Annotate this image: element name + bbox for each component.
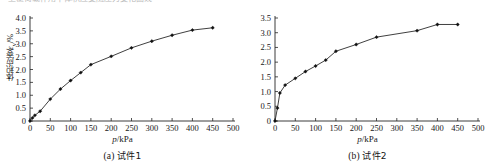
figure-b-caption: (b) 试件2 (245, 150, 490, 162)
x-tick-label: 300 (145, 123, 158, 133)
figure-a-caption-label: (a) (103, 151, 114, 161)
chart-a-y-tick-labels: 00.51.01.52.02.53.03.54.0 (15, 13, 26, 126)
x-tick-label: 450 (451, 123, 464, 133)
data-point-marker (150, 39, 153, 42)
data-point-marker (211, 26, 214, 29)
figure-a: 体积应变εv/% 050100150200250300350400450500 … (0, 8, 245, 167)
y-tick-label: 3.0 (15, 39, 26, 49)
figure-a-caption-name: 试件1 (117, 151, 141, 161)
figure-b-caption-label: (b) (348, 151, 360, 161)
x-tick-label: 350 (166, 123, 179, 133)
x-tick-label: 150 (85, 123, 98, 133)
y-tick-label: 0.5 (260, 101, 271, 111)
data-point-marker (436, 23, 439, 26)
figure-a-caption: (a) 试件1 (0, 150, 245, 162)
figure-b: 体积应变εv/% 050100150200250300350400450500 … (245, 8, 490, 167)
data-point-marker (355, 43, 358, 46)
clipped-header-text: 上覆荷载作用下体积应变随压力变化曲线 (8, 0, 218, 5)
chart-b-x-tick-labels: 050100150200250300350400450500 (273, 123, 485, 133)
x-tick-label: 50 (46, 123, 55, 133)
chart-a-x-tick-labels: 050100150200250300350400450500 (28, 123, 240, 133)
chart-b-series-line (275, 24, 458, 121)
x-tick-label: 200 (105, 123, 118, 133)
y-tick-label: 1.5 (15, 77, 26, 87)
x-tick-label: 50 (291, 123, 300, 133)
x-tick-label: 250 (370, 123, 383, 133)
chart-b-axes (275, 16, 480, 121)
data-point-marker (375, 35, 378, 38)
data-point-marker (191, 28, 194, 31)
x-tick-label: 200 (350, 123, 363, 133)
x-tick-label: 400 (186, 123, 199, 133)
y-tick-label: 3.5 (15, 26, 26, 36)
data-point-marker (110, 55, 113, 58)
y-tick-label: 2.5 (15, 52, 26, 62)
x-tick-label: 350 (411, 123, 424, 133)
y-tick-label: 2.0 (15, 65, 26, 75)
y-tick-label: 3.5 (260, 13, 271, 23)
chart-a-series-markers (28, 26, 214, 123)
x-tick-label: 250 (125, 123, 138, 133)
chart-b-series-markers (273, 23, 459, 123)
chart-b: 050100150200250300350400450500 00.51.01.… (245, 8, 490, 138)
x-tick-label: 300 (390, 123, 403, 133)
chart-b-y-tick-labels: 00.51.01.52.02.53.03.5 (260, 13, 271, 126)
data-point-marker (456, 23, 459, 26)
chart-a-svg: 050100150200250300350400450500 00.51.01.… (0, 8, 245, 138)
y-tick-label: 2.5 (260, 42, 271, 52)
x-tick-label: 100 (309, 123, 322, 133)
x-tick-label: 0 (28, 123, 32, 133)
chart-a-series-line (30, 28, 213, 121)
data-point-marker (415, 29, 418, 32)
y-tick-label: 1.0 (15, 90, 26, 100)
x-tick-label: 150 (330, 123, 343, 133)
y-tick-label: 1.0 (260, 87, 271, 97)
chart-b-svg: 050100150200250300350400450500 00.51.01.… (245, 8, 490, 138)
y-tick-label: 0 (267, 116, 271, 126)
x-tick-label: 450 (206, 123, 219, 133)
data-point-marker (276, 106, 279, 109)
chart-a: 050100150200250300350400450500 00.51.01.… (0, 8, 245, 138)
x-axis-title-a: p/kPa (0, 134, 245, 145)
figure-page: 上覆荷载作用下体积应变随压力变化曲线 体积应变εv/% 050100150200… (0, 0, 490, 167)
y-tick-label: 3.0 (260, 28, 271, 38)
data-point-marker (130, 46, 133, 49)
x-axis-title-b: p/kPa (245, 134, 490, 145)
y-tick-label: 0.5 (15, 103, 26, 113)
data-point-marker (170, 34, 173, 37)
y-tick-label: 2.0 (260, 57, 271, 67)
y-tick-label: 0 (22, 116, 26, 126)
x-tick-label: 100 (64, 123, 77, 133)
x-tick-label: 500 (472, 123, 485, 133)
y-tick-label: 1.5 (260, 72, 271, 82)
figure-b-caption-name: 试件2 (362, 151, 386, 161)
x-tick-label: 0 (273, 123, 277, 133)
chart-a-axes (30, 16, 235, 121)
y-tick-label: 4.0 (15, 13, 26, 23)
x-tick-label: 400 (431, 123, 444, 133)
x-tick-label: 500 (227, 123, 240, 133)
